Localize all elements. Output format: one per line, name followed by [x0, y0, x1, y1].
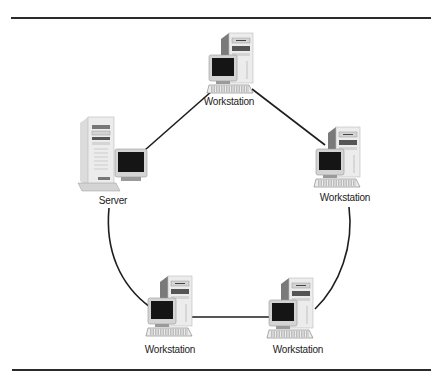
label-ws-right: Workstation [320, 192, 370, 203]
label-ws-top: Workstation [204, 96, 254, 107]
network-svg [0, 0, 443, 382]
workstation-icon [146, 276, 192, 336]
network-nodes [78, 33, 360, 338]
workstation-icon [207, 33, 253, 93]
workstation-icon [314, 127, 360, 187]
label-ws-bottom-right: Workstation [273, 344, 323, 355]
server-icon [78, 117, 147, 191]
label-server: Server [99, 195, 127, 206]
link-server-ws-top [145, 91, 212, 150]
ring-network-diagram: Workstation Server Workstation Workstati… [0, 0, 443, 382]
link-ws-bottom-left-server [108, 208, 150, 307]
link-ws-right-ws-bottom-right [315, 207, 350, 309]
link-ws-top-ws-right [252, 89, 325, 145]
workstation-icon [267, 278, 313, 338]
network-links [108, 89, 350, 317]
label-ws-bottom-left: Workstation [145, 344, 195, 355]
